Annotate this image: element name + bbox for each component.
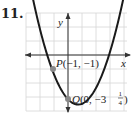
point-Q-label: Q(0, −3 — [72, 93, 107, 106]
y-axis-down-arrow-icon — [66, 107, 71, 113]
parabola-graph: y x P(−1, −1) Q(0, −3 1 4 ) — [0, 0, 137, 118]
point-P-label: P(−1, −1) — [55, 57, 99, 70]
Q-fraction-denominator: 4 — [119, 99, 123, 107]
x-axis-label: x — [120, 57, 126, 69]
x-axis-right-arrow-icon — [125, 53, 131, 58]
figure: 11. y x P(−1, −1) Q(0, −3 1 4 ) — [0, 0, 137, 118]
y-axis-label: y — [57, 16, 63, 28]
parabola-curve — [32, 0, 125, 105]
point-Q — [65, 96, 71, 102]
Q-fraction-numerator: 1 — [119, 90, 123, 98]
y-axis-up-arrow-icon — [66, 13, 71, 19]
Q-label-close: ) — [124, 93, 128, 106]
